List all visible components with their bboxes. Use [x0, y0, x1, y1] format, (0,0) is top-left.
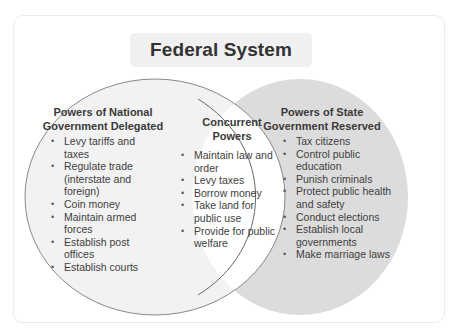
concurrent-powers-list: Maintain law and order Levy taxes Borrow…	[178, 149, 278, 250]
list-item: Protect public health and safety	[280, 185, 392, 210]
national-heading: Powers of National Government Delegated	[38, 105, 168, 133]
state-heading: Powers of State Government Reserved	[262, 105, 382, 133]
list-item: Tax citizens	[280, 135, 392, 148]
list-item: Provide for public welfare	[178, 225, 278, 250]
list-item: Establish local governments	[280, 223, 392, 248]
list-item: Coin money	[48, 198, 146, 211]
list-item: Make marriage laws	[280, 248, 392, 261]
list-item: Establish post offices	[48, 236, 146, 261]
list-item: Establish courts	[48, 261, 146, 274]
concurrent-heading: Concurrent Powers	[192, 115, 272, 143]
list-item: Maintain law and order	[178, 149, 278, 174]
list-item: Take land for public use	[178, 199, 278, 224]
list-item: Control public education	[280, 148, 392, 173]
state-powers-list: Tax citizens Control public education Pu…	[280, 135, 392, 261]
list-item: Borrow money	[178, 187, 278, 200]
list-item: Levy tariffs and taxes	[48, 135, 146, 160]
national-powers-list: Levy tariffs and taxes Regulate trade (i…	[48, 135, 146, 274]
list-item: Punish criminals	[280, 173, 392, 186]
list-item: Maintain armed forces	[48, 211, 146, 236]
list-item: Regulate trade (interstate and foreign)	[48, 160, 146, 198]
list-item: Levy taxes	[178, 174, 278, 187]
list-item: Conduct elections	[280, 211, 392, 224]
